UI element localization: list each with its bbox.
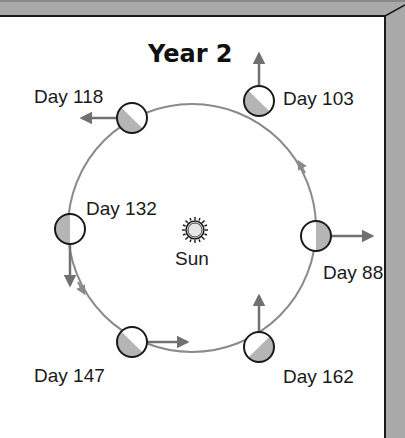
- planet-day-88: [301, 221, 372, 251]
- planet-day-132: [55, 214, 85, 285]
- planet-day-162: [244, 296, 274, 362]
- label-day-162: Day 162: [283, 366, 354, 388]
- label-day-88: Day 88: [323, 262, 383, 284]
- planet-day-147: [117, 327, 187, 357]
- label-day-118: Day 118: [34, 86, 103, 108]
- label-day-103: Day 103: [283, 88, 354, 110]
- sun-icon: [182, 217, 208, 243]
- sun-label: Sun: [175, 248, 209, 270]
- diagram-title: Year 2: [148, 40, 233, 68]
- label-day-147: Day 147: [34, 365, 105, 387]
- planet-day-103: [244, 54, 274, 116]
- label-day-132: Day 132: [86, 198, 157, 220]
